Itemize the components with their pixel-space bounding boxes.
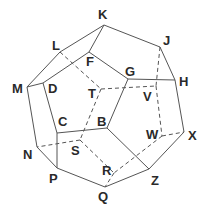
visible-edge-M-N <box>27 87 37 147</box>
vertex-label-T: T <box>88 86 96 101</box>
vertex-label-Q: Q <box>98 189 108 204</box>
vertex-label-F: F <box>86 54 94 69</box>
dodecahedron-diagram: KLFJGHMDTVCBSWXNPRQZ <box>0 0 207 211</box>
visible-edge-J-H <box>160 47 175 80</box>
visible-edge-G-H <box>128 79 175 80</box>
vertex-label-J: J <box>163 33 170 48</box>
vertex-label-P: P <box>49 171 58 186</box>
vertex-label-V: V <box>143 89 152 104</box>
vertex-label-R: R <box>102 163 112 178</box>
vertex-label-N: N <box>23 147 32 162</box>
vertex-label-H: H <box>179 74 188 89</box>
visible-edge-Q-Z <box>105 169 149 187</box>
visible-edge-F-D <box>43 52 89 83</box>
visible-edge-G-B <box>107 79 128 128</box>
vertex-label-M: M <box>12 81 23 96</box>
vertex-label-G: G <box>125 64 135 79</box>
vertex-labels: KLFJGHMDTVCBSWXNPRQZ <box>12 7 197 204</box>
vertex-label-L: L <box>52 38 60 53</box>
visible-edge-B-Z <box>107 128 149 169</box>
vertex-label-D: D <box>48 81 57 96</box>
visible-edge-P-Q <box>57 168 105 187</box>
vertex-label-B: B <box>97 114 106 129</box>
vertex-label-C: C <box>58 114 68 129</box>
vertex-label-W: W <box>146 127 159 142</box>
visible-edge-K-J <box>104 25 160 47</box>
vertex-label-S: S <box>71 143 80 158</box>
vertex-label-Z: Z <box>151 173 159 188</box>
vertex-label-X: X <box>188 128 197 143</box>
visible-edge-K-L <box>60 25 104 52</box>
vertex-label-K: K <box>98 7 108 22</box>
visible-edge-F-G <box>89 52 128 79</box>
visible-edge-N-P <box>37 147 57 168</box>
